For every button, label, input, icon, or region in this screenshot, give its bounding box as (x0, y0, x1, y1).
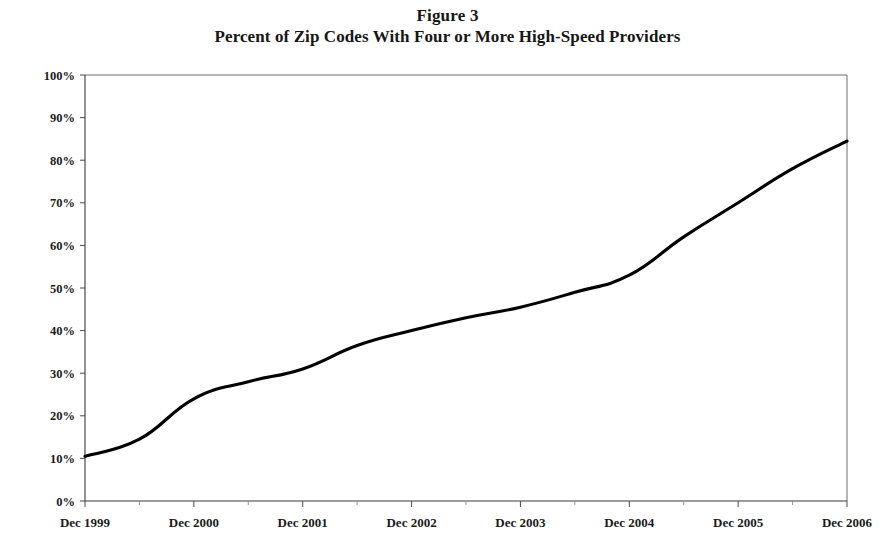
y-tick-label: 100% (44, 69, 75, 83)
line-chart-svg: 100%90%80%70%60%50%40%30%20%10%0% Dec 19… (0, 0, 895, 556)
y-tick-label: 10% (50, 452, 75, 466)
x-tick-label: Dec 2001 (278, 515, 328, 530)
y-tick-label: 80% (50, 154, 75, 168)
y-tick-label: 90% (50, 111, 75, 125)
data-series-line (85, 141, 847, 456)
x-tick-label: Dec 2002 (386, 515, 436, 530)
x-tick-label: Dec 2004 (604, 515, 655, 530)
y-tick-label: 50% (50, 282, 75, 296)
x-tick-label: Dec 2000 (169, 515, 219, 530)
figure-container: Figure 3 Percent of Zip Codes With Four … (0, 0, 895, 556)
y-tick-label-group: 100%90%80%70%60%50%40%30%20%10%0% (44, 69, 75, 509)
y-tick-label: 60% (50, 239, 75, 253)
y-tick-label: 30% (50, 367, 75, 381)
y-tick-label: 40% (50, 324, 75, 338)
y-tick-label: 0% (56, 495, 75, 509)
y-tick-marks (80, 75, 85, 501)
y-tick-label: 70% (50, 196, 75, 210)
x-tick-label: Dec 2003 (495, 515, 546, 530)
x-tick-label: Dec 2005 (713, 515, 764, 530)
x-tick-label: Dec 2006 (822, 515, 873, 530)
chart-frame (85, 75, 847, 501)
x-tick-marks (85, 501, 847, 507)
y-tick-label: 20% (50, 409, 75, 423)
x-tick-label: Dec 1999 (60, 515, 111, 530)
plot-area: 100%90%80%70%60%50%40%30%20%10%0% Dec 19… (0, 0, 895, 556)
x-tick-label-group: Dec 1999Dec 2000Dec 2001Dec 2002Dec 2003… (60, 515, 873, 530)
